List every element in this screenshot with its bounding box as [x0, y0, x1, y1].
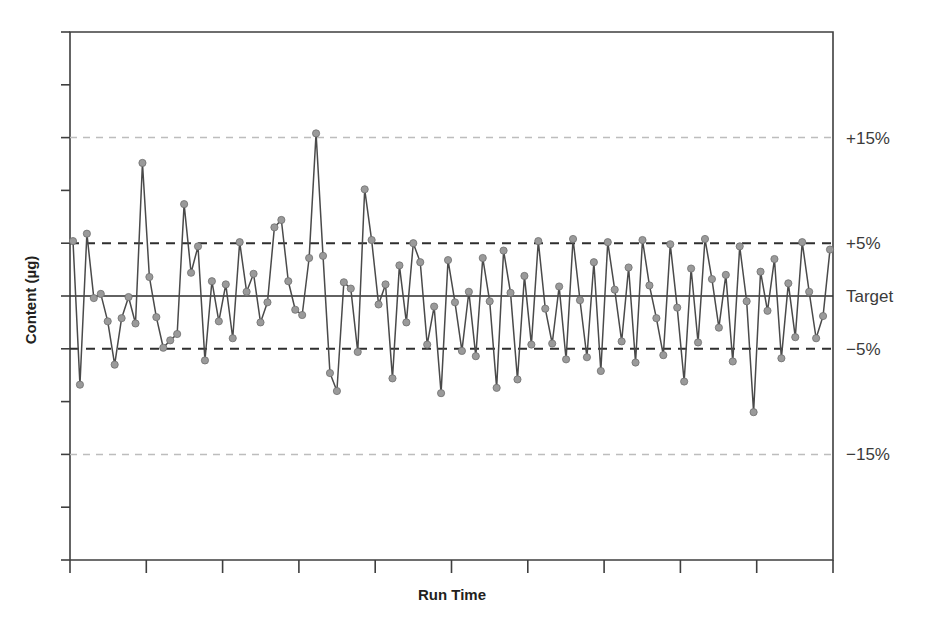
data-point-marker — [437, 390, 444, 397]
data-point-marker — [118, 315, 125, 322]
data-point-marker — [69, 237, 76, 244]
data-point-marker — [701, 235, 708, 242]
data-point-marker — [535, 237, 542, 244]
data-point-marker — [722, 271, 729, 278]
data-point-marker — [354, 348, 361, 355]
data-point-marker — [472, 353, 479, 360]
data-point-marker — [611, 286, 618, 293]
data-point-marker — [528, 341, 535, 348]
data-point-marker — [639, 236, 646, 243]
data-point-marker — [215, 318, 222, 325]
data-point-marker — [597, 367, 604, 374]
data-point-marker — [160, 344, 167, 351]
data-point-marker — [549, 340, 556, 347]
data-point-marker — [771, 255, 778, 262]
data-point-marker — [132, 320, 139, 327]
data-point-marker — [389, 375, 396, 382]
data-point-marker — [458, 347, 465, 354]
data-point-marker — [312, 130, 319, 137]
data-point-marker — [306, 254, 313, 261]
data-point-marker — [444, 257, 451, 264]
data-point-marker — [167, 337, 174, 344]
reference-label-5: −5% — [846, 340, 881, 359]
data-point-marker — [194, 243, 201, 250]
data-point-marker — [361, 186, 368, 193]
data-point-marker — [618, 338, 625, 345]
data-point-marker — [736, 243, 743, 250]
data-point-marker — [187, 269, 194, 276]
data-point-marker — [257, 319, 264, 326]
data-point-marker — [222, 281, 229, 288]
y-axis-title: Content (µg) — [22, 256, 39, 345]
reference-line-labels: +15%+5%Target−5%−15% — [846, 129, 894, 465]
data-point-marker — [806, 288, 813, 295]
data-point-marker — [111, 361, 118, 368]
data-point-marker — [424, 341, 431, 348]
data-point-marker — [507, 289, 514, 296]
data-point-marker — [174, 330, 181, 337]
data-point-marker — [347, 285, 354, 292]
data-point-marker — [514, 376, 521, 383]
data-point-marker — [667, 241, 674, 248]
reference-label-5: +5% — [846, 234, 881, 253]
data-point-marker — [465, 288, 472, 295]
data-point-marker — [382, 281, 389, 288]
data-point-marker — [785, 280, 792, 287]
data-point-marker — [410, 240, 417, 247]
y-axis-ticks — [61, 32, 70, 560]
data-point-marker — [479, 254, 486, 261]
data-point-marker — [264, 299, 271, 306]
data-point-marker — [757, 268, 764, 275]
x-axis-title: Run Time — [418, 586, 486, 603]
data-point-marker — [819, 312, 826, 319]
x-axis-ticks — [70, 560, 833, 573]
data-point-marker — [201, 357, 208, 364]
series-polyline — [73, 133, 830, 412]
data-point-marker — [340, 279, 347, 286]
data-point-marker — [403, 319, 410, 326]
data-point-marker — [375, 301, 382, 308]
data-point-marker — [674, 304, 681, 311]
data-point-marker — [694, 339, 701, 346]
data-point-marker — [708, 276, 715, 283]
data-point-marker — [646, 282, 653, 289]
reference-lines — [70, 138, 833, 455]
data-point-marker — [319, 252, 326, 259]
data-point-marker — [451, 299, 458, 306]
data-point-marker — [250, 270, 257, 277]
data-point-marker — [632, 359, 639, 366]
data-point-marker — [431, 303, 438, 310]
data-point-marker — [653, 315, 660, 322]
data-point-marker — [764, 307, 771, 314]
data-point-marker — [813, 335, 820, 342]
data-point-marker — [299, 311, 306, 318]
reference-label-15: −15% — [846, 445, 890, 464]
reference-label-Target: Target — [846, 287, 894, 306]
data-point-marker — [90, 295, 97, 302]
data-point-marker — [396, 262, 403, 269]
data-point-marker — [368, 236, 375, 243]
data-point-marker — [681, 378, 688, 385]
data-point-marker — [486, 298, 493, 305]
data-point-marker — [556, 283, 563, 290]
data-point-marker — [181, 201, 188, 208]
data-point-marker — [660, 352, 667, 359]
data-series-content — [69, 130, 833, 416]
data-point-marker — [493, 384, 500, 391]
data-point-marker — [83, 230, 90, 237]
data-point-marker — [562, 356, 569, 363]
data-point-marker — [729, 358, 736, 365]
data-point-marker — [292, 306, 299, 313]
data-point-marker — [146, 273, 153, 280]
data-point-marker — [500, 247, 507, 254]
data-point-marker — [229, 335, 236, 342]
data-point-marker — [778, 355, 785, 362]
data-point-marker — [208, 278, 215, 285]
content-uniformity-chart: +15%+5%Target−5%−15% Content (µg) Run Ti… — [0, 0, 925, 628]
data-point-marker — [285, 278, 292, 285]
data-point-marker — [625, 264, 632, 271]
data-point-marker — [125, 293, 132, 300]
data-point-marker — [326, 369, 333, 376]
data-point-marker — [604, 239, 611, 246]
chart-canvas: +15%+5%Target−5%−15% Content (µg) Run Ti… — [0, 0, 925, 628]
